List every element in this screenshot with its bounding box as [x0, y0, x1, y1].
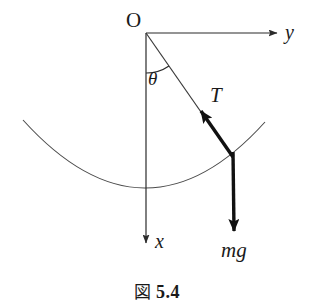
figure-caption: 図5.4 [0, 278, 314, 303]
weight-vector [233, 152, 234, 231]
angle-theta-label: θ [148, 69, 157, 88]
caption-symbol: 図 [134, 282, 151, 302]
curved-track [23, 120, 265, 188]
diagram-canvas [0, 0, 314, 307]
weight-label: mg [221, 240, 247, 261]
y-axis-label: y [285, 22, 294, 42]
physics-figure: O y θ T x mg 図5.4 [0, 0, 314, 307]
origin-label: O [126, 10, 141, 31]
tension-vector [201, 111, 233, 157]
tension-label: T [210, 85, 222, 106]
x-axis-label: x [155, 231, 164, 251]
caption-number: 5.4 [156, 282, 180, 302]
